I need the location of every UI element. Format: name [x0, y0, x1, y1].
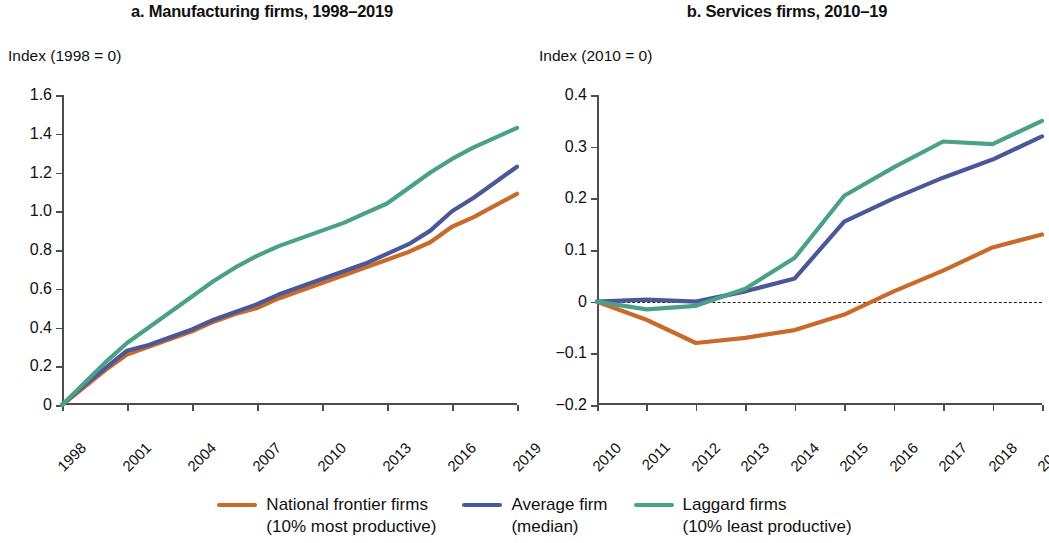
x-axis-tick [993, 405, 995, 411]
legend-swatch-laggard [634, 503, 674, 508]
x-axis-tick [795, 405, 797, 411]
y-axis-tick-label: 1.2 [30, 164, 52, 182]
x-axis-tick-label: 2014 [810, 415, 846, 451]
panel-services: b. Services firms, 2010–19 Index (2010 =… [525, 0, 1049, 480]
x-axis-tick [894, 405, 896, 411]
legend-label: Average firm(median) [511, 494, 607, 539]
legend-label: National frontier firms(10% most product… [266, 494, 436, 539]
chart-legend: National frontier firms(10% most product… [0, 494, 1049, 539]
x-axis-tick-label: 2010 [337, 415, 373, 451]
x-axis-tick-label: 2013 [402, 415, 438, 451]
x-axis-tick-label: 2016 [909, 415, 945, 451]
x-axis-tick-label: 2001 [142, 415, 178, 451]
x-axis-tick-label: 2007 [272, 415, 308, 451]
series-line [62, 167, 517, 405]
y-axis-tick-label: 0.8 [30, 241, 52, 259]
x-axis-tick-label: 2010 [612, 415, 648, 451]
y-axis-tick-label: 1.0 [30, 202, 52, 220]
legend-item: Laggard firms(10% least productive) [634, 494, 852, 539]
series-layer [62, 95, 517, 405]
legend-sublabel: (10% least productive) [683, 516, 852, 539]
y-axis-tick-label: 0.3 [565, 138, 587, 156]
x-axis-tick [517, 405, 519, 411]
x-axis-tick-label: 2012 [711, 415, 747, 451]
panel-manufacturing: a. Manufacturing firms, 1998–2019 Index … [0, 0, 524, 480]
legend-item: National frontier firms(10% most product… [217, 494, 436, 539]
x-axis-tick [745, 405, 747, 411]
x-axis-tick [127, 405, 129, 411]
y-axis-tick-label: 0.4 [30, 319, 52, 337]
y-axis-tick-label: 1.4 [30, 125, 52, 143]
legend-sublabel: (median) [511, 516, 607, 539]
x-axis-tick-label: 2018 [1008, 415, 1044, 451]
y-axis-tick-label: −0.2 [555, 396, 587, 414]
legend-swatch-frontier [217, 503, 257, 508]
x-axis-tick-label: 2011 [661, 415, 696, 450]
panel-a-axis-caption: Index (1998 = 0) [8, 47, 121, 65]
x-axis-tick [387, 405, 389, 411]
x-axis-tick [844, 405, 846, 411]
y-axis-tick-label: 0 [578, 293, 587, 311]
panel-a-title: a. Manufacturing firms, 1998–2019 [0, 2, 524, 21]
legend-item: Average firm(median) [462, 494, 607, 539]
panel-a-plot-area: 00.20.40.60.81.01.21.41.6199820012004200… [62, 95, 517, 405]
x-axis-tick-label: 2015 [860, 415, 896, 451]
series-line [62, 128, 517, 405]
y-axis-tick-label: 0 [43, 396, 52, 414]
x-axis-tick [646, 405, 648, 411]
legend-label: Laggard firms(10% least productive) [683, 494, 852, 539]
x-axis-tick [452, 405, 454, 411]
y-axis-tick-label: −0.1 [555, 344, 587, 362]
x-axis-tick [322, 405, 324, 411]
x-axis-tick [192, 405, 194, 411]
x-axis-tick [943, 405, 945, 411]
y-axis-tick-label: 1.6 [30, 86, 52, 104]
legend-swatch-average [462, 503, 502, 508]
x-axis-tick-label: 1998 [77, 415, 113, 451]
x-axis-tick-label: 2017 [958, 415, 994, 451]
x-axis-tick-label: 2013 [761, 415, 797, 451]
x-axis-tick-label: 2016 [467, 415, 503, 451]
y-axis-tick-label: 0.6 [30, 280, 52, 298]
panel-b-title: b. Services firms, 2010–19 [525, 2, 1049, 21]
panel-b-plot-area: −0.2−0.100.10.20.30.42010201120122013201… [597, 95, 1042, 405]
x-axis-tick [257, 405, 259, 411]
y-axis-tick-label: 0.2 [565, 189, 587, 207]
x-axis-tick [696, 405, 698, 411]
legend-sublabel: (10% most productive) [266, 516, 436, 539]
y-axis-tick-label: 0.1 [565, 241, 587, 259]
y-axis-tick-label: 0.2 [30, 357, 52, 375]
panel-b-axis-caption: Index (2010 = 0) [539, 47, 652, 65]
y-axis-tick-label: 0.4 [565, 86, 587, 104]
x-axis-tick [597, 405, 599, 411]
series-line [597, 121, 1042, 310]
x-axis-tick-label: 2004 [207, 415, 243, 451]
series-layer [597, 95, 1042, 405]
series-line [62, 194, 517, 405]
series-line [597, 136, 1042, 301]
x-axis-tick [1042, 405, 1044, 411]
productivity-dispersion-figure: a. Manufacturing firms, 1998–2019 Index … [0, 0, 1049, 543]
